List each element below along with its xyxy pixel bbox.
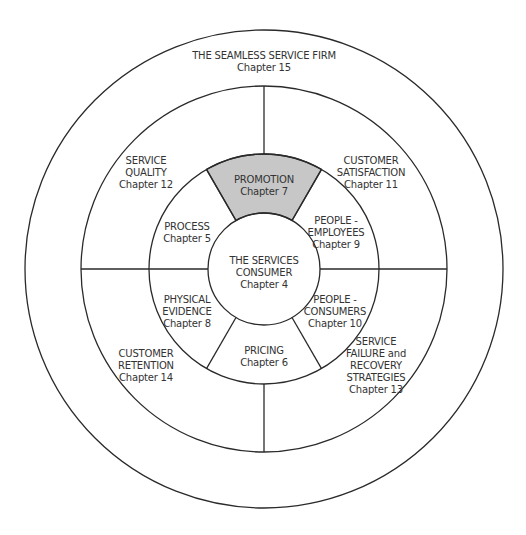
label-line: SERVICE: [356, 336, 397, 347]
label-line: EMPLOYEES: [308, 227, 365, 238]
label-customer-satisfaction: CUSTOMER SATISFACTION Chapter 11: [337, 155, 406, 190]
label-line: SATISFACTION: [337, 167, 406, 178]
label-line: PROMOTION: [234, 174, 294, 185]
label-chapter: Chapter 11: [344, 179, 398, 190]
label-customer-retention: CUSTOMER RETENTION Chapter 14: [118, 348, 174, 383]
label-line: CUSTOMER: [119, 348, 174, 359]
label-line: SERVICE: [126, 155, 167, 166]
label-line: PRICING: [244, 345, 284, 356]
label-line: CONSUMERS: [304, 306, 366, 317]
label-line: EVIDENCE: [162, 306, 211, 317]
services-marketing-framework-diagram: THE SEAMLESS SERVICE FIRM Chapter 15 SER…: [0, 0, 526, 535]
label-physical-evidence: PHYSICAL EVIDENCE Chapter 8: [162, 294, 211, 329]
label-service-failure-recovery: SERVICE FAILURE and RECOVERY STRATEGIES …: [346, 336, 406, 395]
label-line: THE SERVICES: [228, 255, 298, 266]
label-service-quality: SERVICE QUALITY Chapter 12: [119, 155, 173, 190]
label-chapter: Chapter 5: [163, 233, 211, 244]
label-services-consumer: THE SERVICES CONSUMER Chapter 4: [228, 255, 298, 290]
divider-inner-bl: [207, 318, 237, 369]
label-line: CONSUMER: [236, 267, 293, 278]
label-title: THE SEAMLESS SERVICE FIRM: [191, 50, 336, 61]
label-line: QUALITY: [125, 167, 167, 178]
label-line: PHYSICAL: [164, 294, 211, 305]
label-line: RECOVERY: [350, 360, 403, 371]
label-people-consumers: PEOPLE - CONSUMERS Chapter 10: [304, 294, 366, 329]
label-chapter: Chapter 6: [240, 357, 288, 368]
label-line: PROCESS: [164, 221, 209, 232]
label-line: RETENTION: [118, 360, 174, 371]
label-chapter: Chapter 12: [119, 179, 173, 190]
label-line: CUSTOMER: [344, 155, 399, 166]
label-chapter: Chapter 14: [119, 372, 173, 383]
label-chapter: Chapter 4: [240, 279, 288, 290]
label-promotion: PROMOTION Chapter 7: [234, 174, 294, 197]
label-chapter: Chapter 8: [163, 318, 211, 329]
label-chapter: Chapter 10: [308, 318, 362, 329]
label-people-employees: PEOPLE - EMPLOYEES Chapter 9: [308, 215, 365, 250]
label-chapter: Chapter 7: [240, 186, 288, 197]
label-line: PEOPLE -: [313, 294, 357, 305]
label-chapter: Chapter 15: [237, 62, 291, 73]
label-chapter: Chapter 13: [349, 384, 403, 395]
label-seamless-service-firm: THE SEAMLESS SERVICE FIRM Chapter 15: [191, 50, 336, 73]
label-line: PEOPLE -: [314, 215, 358, 226]
label-line: STRATEGIES: [347, 372, 406, 383]
label-chapter: Chapter 9: [312, 239, 360, 250]
label-pricing: PRICING Chapter 6: [240, 345, 288, 368]
label-process: PROCESS Chapter 5: [163, 221, 211, 244]
label-line: FAILURE and: [346, 348, 406, 359]
